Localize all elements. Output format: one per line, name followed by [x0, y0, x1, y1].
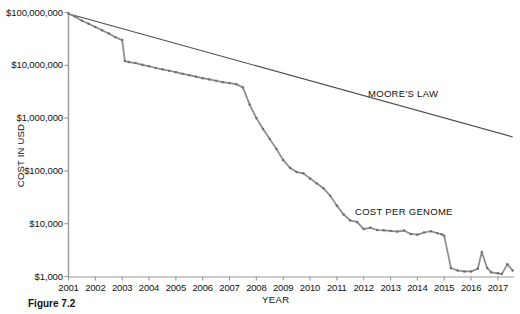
y-axis-tick-label: $1,000 — [0, 271, 63, 282]
x-axis-title: YEAR — [262, 294, 289, 305]
y-axis-tick-label: $10,000,000 — [0, 59, 63, 70]
chart-plot-area — [0, 0, 520, 314]
y-axis-tick-label: $10,000 — [0, 218, 63, 229]
figure-container: $100,000,000$10,000,000$1,000,000$100,00… — [0, 0, 520, 314]
x-axis-tick-label: 2017 — [481, 282, 515, 293]
cost-per-genome-annotation-label: COST PER GENOME — [355, 206, 453, 217]
cost-per-genome-markers — [67, 12, 514, 275]
moores-law-series-line — [69, 14, 513, 137]
moores-law-annotation-label: MOORE'S LAW — [368, 88, 438, 99]
y-axis-tick-label: $100,000,000 — [0, 7, 63, 18]
y-axis-title: COST IN USD — [15, 106, 26, 206]
figure-caption: Figure 7.2 — [28, 298, 75, 309]
cost-per-genome-series-line — [69, 14, 513, 274]
y-axis-tick-label: $1,000,000 — [0, 112, 63, 123]
y-axis-tick-label: $100,000 — [0, 165, 63, 176]
